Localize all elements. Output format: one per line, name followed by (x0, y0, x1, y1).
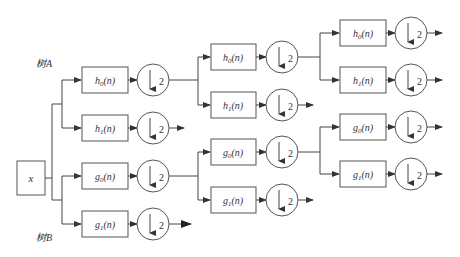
svg-text:2: 2 (159, 220, 164, 231)
level1-A-h1: h1(n) 2 (82, 112, 184, 144)
svg-text:2: 2 (288, 148, 293, 159)
svg-text:2: 2 (417, 123, 422, 134)
level3-B-g1: g1(n) 2 (340, 158, 442, 190)
level2-B-g0: g0(n) 2 (211, 136, 298, 168)
svg-text:2: 2 (417, 170, 422, 181)
downsample-icon (266, 184, 298, 216)
level1-A-h0: h0(n) 2 (82, 64, 169, 96)
downsample-icon (266, 89, 298, 121)
level1-B-g0: g0(n) 2 (82, 160, 169, 192)
svg-text:树B: 树B (36, 232, 52, 243)
split-line (45, 104, 52, 200)
svg-text:2: 2 (159, 76, 164, 87)
svg-text:2: 2 (288, 53, 293, 64)
level2-B-g1: g1(n) 2 (211, 184, 313, 216)
level3-A-h1: h1(n) 2 (340, 64, 442, 96)
svg-text:2: 2 (159, 124, 164, 135)
downsample-icon (137, 112, 169, 144)
dual-tree-diagram: 树A 树B x h0(n) 2 h1(n) 2 g0(n) (0, 0, 460, 257)
downsample-icon (395, 64, 427, 96)
svg-text:2: 2 (288, 196, 293, 207)
level2-A-h0: h0(n) 2 (211, 41, 298, 73)
svg-text:2: 2 (288, 101, 293, 112)
svg-text:2: 2 (417, 76, 422, 87)
downsample-icon (395, 158, 427, 190)
svg-text:x: x (28, 172, 34, 184)
downsample-icon (137, 208, 169, 240)
level3-B-g0: g0(n) 2 (340, 111, 442, 143)
svg-text:树A: 树A (36, 58, 53, 69)
level2-A-h1: h1(n) 2 (211, 89, 313, 121)
downsample-icon (395, 111, 427, 143)
downsample-icon (137, 160, 169, 192)
input-box: x (17, 161, 45, 195)
level1-B-g1: g1(n) 2 (82, 208, 191, 240)
level3-A-h0: h0(n) 2 (340, 17, 442, 49)
svg-text:2: 2 (159, 172, 164, 183)
tree-a-label: 树A (36, 58, 53, 69)
downsample-icon (266, 136, 298, 168)
tree-b-label: 树B (36, 232, 52, 243)
downsample-icon (266, 41, 298, 73)
downsample-icon (137, 64, 169, 96)
downsample-icon (395, 17, 427, 49)
svg-text:2: 2 (417, 29, 422, 40)
